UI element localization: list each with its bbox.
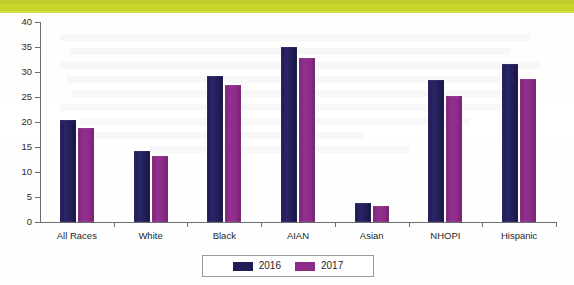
legend-item-2017: 2017 <box>295 261 343 271</box>
x-label-all-races: All Races <box>40 230 114 241</box>
bar-2017-white <box>152 156 168 222</box>
x-label-white: White <box>114 230 188 241</box>
legend-label-2017: 2017 <box>321 261 343 271</box>
bar-2016-all-races <box>60 120 76 222</box>
bars-layer <box>0 0 574 222</box>
bar-2017-hispanic <box>520 79 536 222</box>
chart-legend: 2016 2017 <box>202 255 374 277</box>
x-label-hispanic: Hispanic <box>482 230 556 241</box>
bar-2017-nhopi <box>446 96 462 222</box>
bar-2016-aian <box>281 47 297 222</box>
x-label-aian: AIAN <box>261 230 335 241</box>
legend-label-2016: 2016 <box>259 261 281 271</box>
x-tick <box>114 222 115 227</box>
x-label-asian: Asian <box>335 230 409 241</box>
bar-2017-asian <box>373 206 389 222</box>
x-label-black: Black <box>187 230 261 241</box>
bar-chart: 0510152025303540 All RacesWhiteBlackAIAN… <box>0 0 574 285</box>
y-tick <box>35 222 40 223</box>
bar-2016-black <box>207 76 223 222</box>
x-axis-line <box>40 222 556 223</box>
legend-swatch-2017 <box>295 262 315 271</box>
bar-2017-black <box>225 85 241 222</box>
bar-2016-white <box>134 151 150 222</box>
x-tick <box>187 222 188 227</box>
bar-2016-asian <box>355 203 371 222</box>
bar-2017-all-races <box>78 128 94 222</box>
x-tick <box>335 222 336 227</box>
bar-2016-nhopi <box>428 80 444 222</box>
x-label-nhopi: NHOPI <box>409 230 483 241</box>
legend-swatch-2016 <box>233 262 253 271</box>
bar-2017-aian <box>299 58 315 222</box>
x-tick <box>482 222 483 227</box>
x-tick <box>261 222 262 227</box>
legend-item-2016: 2016 <box>233 261 281 271</box>
x-tick <box>409 222 410 227</box>
x-tick <box>556 222 557 227</box>
bar-2016-hispanic <box>502 64 518 222</box>
